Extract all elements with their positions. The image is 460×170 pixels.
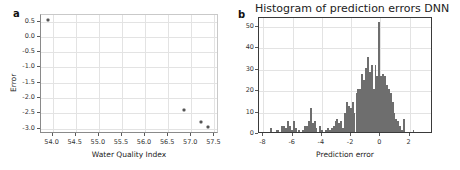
scatter-ytick (37, 82, 40, 83)
scatter-xtick (121, 133, 122, 136)
scatter-yticklabel: -2.0 (12, 93, 35, 101)
scatter-yticklabel: -1.0 (12, 62, 35, 70)
scatter-point (199, 120, 202, 123)
scatter-yticklabel: -0.5 (12, 47, 35, 55)
histogram-ytick (255, 69, 258, 70)
scatter-ytick (37, 112, 40, 113)
histogram-bar (298, 130, 300, 132)
scatter-ytick (37, 66, 40, 67)
histogram-xticklabel: -8 (259, 138, 265, 146)
histogram-bar (413, 130, 415, 132)
scatter-xaxis-title: Water Quality Index (92, 150, 166, 159)
scatter-gridline-h (41, 98, 217, 99)
scatter-xtick (167, 133, 168, 136)
histogram-yticklabel: 20 (232, 86, 254, 94)
scatter-xtick (52, 133, 53, 136)
histogram-bar (403, 119, 405, 132)
scatter-yticklabel: 0.0 (12, 32, 35, 40)
scatter-gridline-v (145, 15, 146, 132)
scatter-gridline-h (41, 67, 217, 68)
scatter-gridline-v (122, 15, 123, 132)
histogram-gridline-v (410, 18, 411, 132)
scatter-xticklabel: 55.5 (114, 138, 128, 146)
scatter-plot-area (40, 14, 218, 133)
scatter-point (46, 18, 49, 21)
scatter-xtick (98, 133, 99, 136)
scatter-xticklabel: 56.5 (160, 138, 174, 146)
histogram-yticklabel: 50 (232, 22, 254, 30)
histogram-gridline-h (259, 70, 431, 71)
panel-a: a Water Quality Index Error 54.054.555.0… (0, 0, 230, 170)
scatter-xticklabel: 54.0 (44, 138, 58, 146)
scatter-gridline-v (99, 15, 100, 132)
histogram-xtick (379, 133, 380, 136)
scatter-ytick (37, 97, 40, 98)
scatter-xticklabel: 56.0 (137, 138, 151, 146)
scatter-gridline-h (41, 83, 217, 84)
scatter-ytick (37, 51, 40, 52)
scatter-gridline-v (191, 15, 192, 132)
histogram-xtick (262, 133, 263, 136)
histogram-bar (321, 130, 323, 132)
histogram-bar (316, 128, 318, 132)
histogram-ytick (255, 90, 258, 91)
histogram-xaxis-title: Prediction error (316, 150, 374, 159)
histogram-xtick (292, 133, 293, 136)
scatter-ytick (37, 21, 40, 22)
scatter-xticklabel: 54.5 (67, 138, 81, 146)
scatter-point (207, 125, 210, 128)
histogram-title: Histogram of prediction errors DNN (255, 2, 449, 15)
scatter-xtick (190, 133, 191, 136)
scatter-ytick (37, 36, 40, 37)
scatter-gridline-h (41, 52, 217, 53)
histogram-ytick (255, 47, 258, 48)
histogram-gridline-v (322, 18, 323, 132)
histogram-gridline-h (259, 91, 431, 92)
histogram-xticklabel: 2 (407, 138, 411, 146)
histogram-xticklabel: -2 (347, 138, 353, 146)
histogram-xticklabel: 0 (377, 138, 381, 146)
histogram-xtick (321, 133, 322, 136)
scatter-yticklabel: -2.5 (12, 108, 35, 116)
scatter-ytick (37, 128, 40, 129)
histogram-xtick (350, 133, 351, 136)
scatter-point (183, 109, 186, 112)
histogram-yticklabel: 0 (232, 129, 254, 137)
histogram-xtick (409, 133, 410, 136)
panel-b: b Histogram of prediction errors DNN Pre… (230, 0, 460, 170)
histogram-yticklabel: 30 (232, 65, 254, 73)
scatter-xticklabel: 57.0 (183, 138, 197, 146)
scatter-yticklabel: 0.5 (12, 17, 35, 25)
scatter-xtick (213, 133, 214, 136)
scatter-xticklabel: 57.5 (206, 138, 220, 146)
histogram-plot-area (258, 17, 432, 133)
histogram-yticklabel: 10 (232, 108, 254, 116)
scatter-xtick (75, 133, 76, 136)
scatter-gridline-v (168, 15, 169, 132)
histogram-xticklabel: -6 (288, 138, 294, 146)
histogram-ytick (255, 112, 258, 113)
scatter-yticklabel: -1.5 (12, 78, 35, 86)
panel-b-letter: b (238, 9, 245, 20)
histogram-bar (270, 128, 272, 132)
scatter-xtick (144, 133, 145, 136)
scatter-gridline-h (41, 129, 217, 130)
scatter-gridline-v (214, 15, 215, 132)
scatter-gridline-h (41, 113, 217, 114)
histogram-xticklabel: -4 (318, 138, 324, 146)
scatter-gridline-v (53, 15, 54, 132)
histogram-gridline-v (263, 18, 264, 132)
histogram-gridline-v (293, 18, 294, 132)
scatter-gridline-h (41, 22, 217, 23)
scatter-gridline-v (76, 15, 77, 132)
histogram-ytick (255, 26, 258, 27)
histogram-gridline-h (259, 48, 431, 49)
scatter-yticklabel: -3.0 (12, 124, 35, 132)
scatter-gridline-h (41, 37, 217, 38)
histogram-bar (278, 130, 280, 132)
histogram-yticklabel: 40 (232, 43, 254, 51)
histogram-gridline-h (259, 27, 431, 28)
scatter-xticklabel: 55.0 (91, 138, 105, 146)
histogram-ytick (255, 133, 258, 134)
figure: a Water Quality Index Error 54.054.555.0… (0, 0, 460, 170)
